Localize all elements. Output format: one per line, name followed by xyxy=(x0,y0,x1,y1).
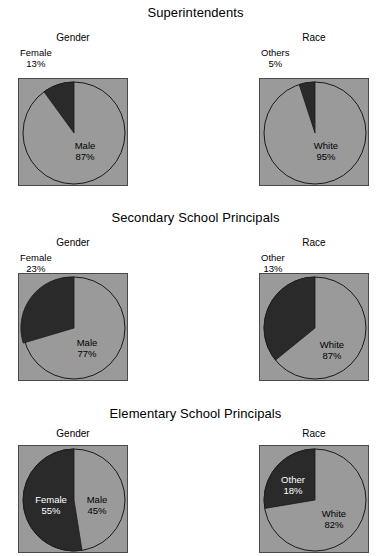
pie-minor-slice xyxy=(264,449,315,508)
pie-svg xyxy=(19,446,129,554)
panel-caption: Gender xyxy=(18,237,128,249)
section-superintendents: Superintendents Gender Female 13% Male 8… xyxy=(0,0,391,200)
outside-label-name: Others xyxy=(261,47,290,58)
panel-caption: Race xyxy=(259,428,369,440)
section-secondary-school-principals: Secondary School Principals Gender Femal… xyxy=(0,195,391,395)
pie-svg xyxy=(19,274,129,382)
panel-caption: Gender xyxy=(18,32,128,44)
plot-box: Male 87% xyxy=(18,78,128,186)
plot-box: Other 18% White 82% xyxy=(259,445,369,553)
pie-svg xyxy=(19,79,129,187)
section-title: Elementary School Principals xyxy=(0,406,391,421)
plot-box: Female 55% Male 45% xyxy=(18,445,128,553)
pie-svg xyxy=(260,274,370,382)
pie-chart-figure: Superintendents Gender Female 13% Male 8… xyxy=(0,0,391,556)
plot-box: White 87% xyxy=(259,273,369,381)
outside-label-pct: 5% xyxy=(261,58,290,69)
pie-svg xyxy=(260,79,370,187)
pie-svg xyxy=(260,446,370,554)
plot-box: White 95% xyxy=(259,78,369,186)
pie-minor-slice xyxy=(23,449,82,551)
section-title: Secondary School Principals xyxy=(0,210,391,225)
plot-box: Male 77% xyxy=(18,273,128,381)
section-elementary-school-principals: Elementary School Principals Gender Fema… xyxy=(0,395,391,556)
outside-label-others: Others 5% xyxy=(261,47,290,69)
panel-caption: Race xyxy=(259,237,369,249)
outside-label-other: Other 13% xyxy=(261,252,285,274)
outside-label-pct: 13% xyxy=(20,58,52,69)
section-title: Superintendents xyxy=(0,5,391,20)
panel-caption: Gender xyxy=(18,428,128,440)
outside-label-female: Female 13% xyxy=(20,47,52,69)
outside-label-female: Female 23% xyxy=(20,252,52,274)
outside-label-name: Other xyxy=(261,252,285,263)
panel-caption: Race xyxy=(259,32,369,44)
outside-label-name: Female xyxy=(20,47,52,58)
outside-label-name: Female xyxy=(20,252,52,263)
